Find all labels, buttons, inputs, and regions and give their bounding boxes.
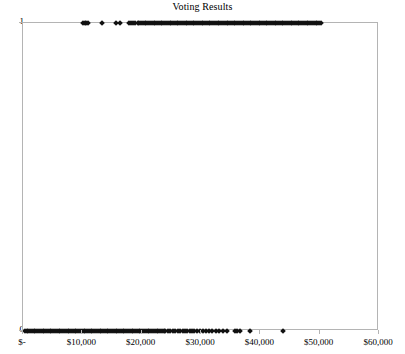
x-axis-tick-mark bbox=[81, 330, 82, 334]
x-axis-tick-mark bbox=[141, 330, 142, 334]
x-axis-tick-mark bbox=[378, 330, 379, 334]
x-axis-tick-mark bbox=[319, 330, 320, 334]
data-point-marker bbox=[247, 328, 253, 334]
chart-figure: Voting Results 1 0 $-$10,000$20,000$30,0… bbox=[0, 0, 405, 354]
plot-points-layer bbox=[23, 23, 377, 329]
data-point-marker bbox=[85, 20, 91, 26]
data-point-marker bbox=[224, 328, 230, 334]
data-point-marker bbox=[99, 20, 105, 26]
x-axis-tick-label: $60,000 bbox=[343, 337, 405, 348]
x-axis-tick-mark bbox=[22, 330, 23, 334]
chart-title: Voting Results bbox=[0, 1, 405, 13]
plot-area bbox=[22, 22, 378, 330]
data-point-marker bbox=[117, 20, 123, 26]
x-axis-tick-mark bbox=[259, 330, 260, 334]
data-point-marker bbox=[281, 328, 287, 334]
x-axis-tick-mark bbox=[200, 330, 201, 334]
